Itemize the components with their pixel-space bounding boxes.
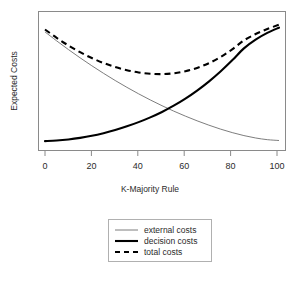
legend-label-total-costs: total costs xyxy=(144,247,182,257)
x-tick-label-60: 60 xyxy=(179,161,189,171)
x-tick-label-40: 40 xyxy=(133,161,143,171)
x-tick-label-20: 20 xyxy=(86,161,96,171)
legend: external costs decision costs total cost… xyxy=(109,220,212,262)
legend-label-decision-costs: decision costs xyxy=(144,236,197,246)
x-axis-title: K-Majority Rule xyxy=(121,184,179,194)
x-tick-label-0: 0 xyxy=(42,161,47,171)
x-tick-label-100: 100 xyxy=(269,161,284,171)
y-axis-title: Expected Costs xyxy=(9,51,19,111)
legend-label-external-costs: external costs xyxy=(144,225,196,235)
x-tick-label-80: 80 xyxy=(226,161,236,171)
expected-costs-chart: 0 20 40 60 80 100 K-Majority Rule Expect… xyxy=(0,0,300,281)
